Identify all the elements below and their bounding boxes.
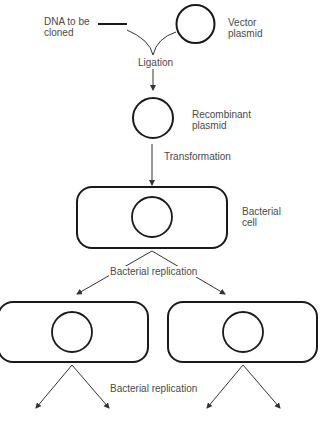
label-bacterial-cell: Bacterial cell	[242, 206, 281, 228]
label-ligation: Ligation	[137, 57, 174, 68]
replication-arrow-right-left	[207, 365, 243, 408]
label-recombinant-plasmid: Recombinant plasmid	[192, 109, 251, 131]
cloning-diagram: DNA to be cloned Vector plasmid Ligation…	[0, 0, 325, 421]
replication-arrow-left-left	[36, 365, 72, 408]
label-vector-plasmid: Vector plasmid	[228, 17, 262, 39]
ligation-curve-right	[153, 32, 176, 55]
bacterial-cell-plasmid	[132, 197, 172, 237]
label-transformation: Transformation	[164, 151, 231, 162]
daughter-cell-right-body	[168, 302, 317, 362]
daughter-cell-right-plasmid	[223, 312, 263, 352]
daughter-cell-left-plasmid	[52, 312, 92, 352]
replication-arrow-right-right	[243, 365, 280, 408]
recombinant-plasmid-circle	[133, 98, 173, 138]
label-bacterial-replication-1: Bacterial replication	[109, 266, 198, 277]
daughter-cell-left-body	[0, 302, 148, 362]
label-dna-to-be-cloned: DNA to be cloned	[44, 16, 90, 38]
ligation-curve-left	[127, 30, 153, 55]
vector-plasmid-circle	[177, 5, 215, 43]
replication-arrow-left-right	[72, 365, 109, 408]
label-bacterial-replication-2: Bacterial replication	[110, 383, 197, 394]
